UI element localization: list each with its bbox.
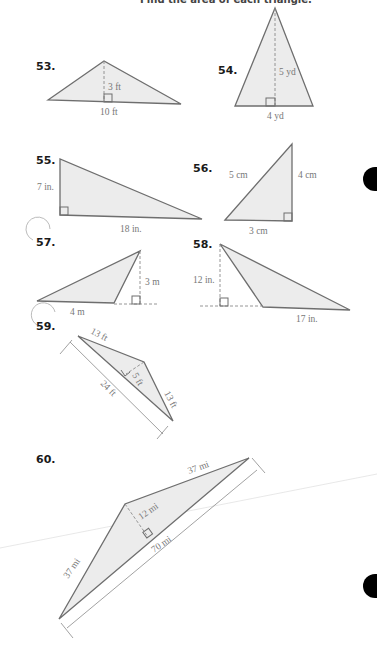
problem-56-base-label: 3 cm [249, 226, 268, 236]
problem-58-base-label: 17 in. [296, 314, 318, 324]
triangle-56: 5 cm 4 cm 3 cm [225, 144, 317, 236]
problem-55-height-label: 7 in. [37, 182, 54, 192]
figures: 3 ft 10 ft 5 yd 4 yd 7 in. 18 in. 5 cm 4… [0, 0, 377, 664]
problem-56-height-label: 4 cm [298, 170, 317, 180]
triangle-58: 12 in. 17 in. [193, 244, 350, 324]
problem-57-base-label: 4 m [70, 307, 85, 317]
triangle-55: 7 in. 18 in. [37, 159, 202, 234]
problem-55-base-label: 18 in. [120, 224, 142, 234]
problem-59-base-label: 24 ft [99, 378, 119, 398]
problem-58-height-label: 12 in. [193, 275, 215, 285]
problem-54-base-label: 4 yd [267, 111, 284, 121]
problem-59-side1-label: 13 ft [89, 326, 110, 343]
triangle-53: 3 ft 10 ft [48, 61, 181, 117]
problem-57-height-label: 3 m [145, 277, 160, 287]
triangle-59: 13 ft 5 ft 24 ft 13 ft [60, 326, 180, 439]
worksheet-page: Find the area of each triangle. 53. 54. … [0, 0, 377, 664]
problem-53-base-label: 10 ft [100, 107, 118, 117]
triangle-54: 5 yd 4 yd [235, 8, 313, 121]
triangle-57: 3 m 4 m [37, 251, 160, 317]
problem-54-height-label: 5 yd [279, 67, 296, 77]
triangle-60: 37 mi 12 mi 70 mi 37 mi [59, 458, 265, 638]
problem-53-height-label: 3 ft [108, 82, 121, 92]
problem-56-hypotenuse-label: 5 cm [229, 170, 248, 180]
problem-60-side2-label: 37 mi [61, 556, 82, 580]
